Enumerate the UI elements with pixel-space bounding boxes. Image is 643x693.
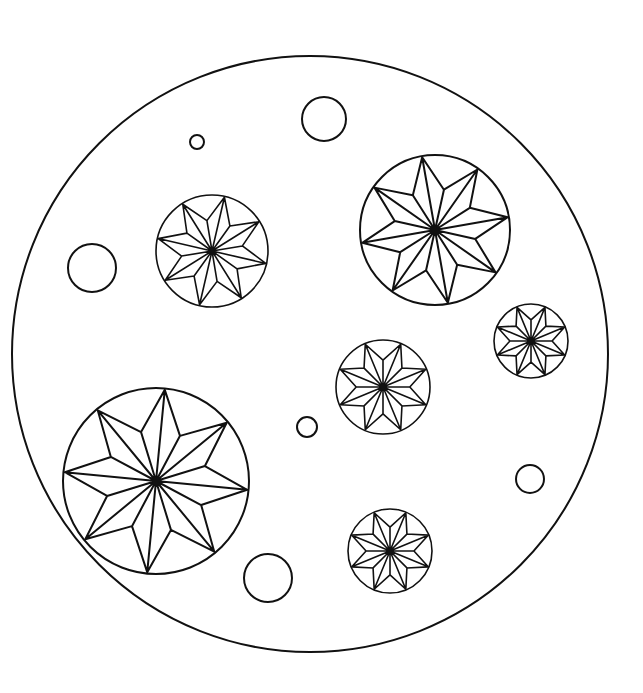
star-center-dot [529, 339, 534, 344]
star-middle [336, 340, 430, 434]
star-top-right [360, 155, 510, 305]
star-top-left [156, 195, 268, 307]
star-center-dot [209, 248, 214, 253]
star-center-dot [432, 227, 439, 234]
star-bottom-left [63, 388, 249, 574]
circle-left [68, 244, 116, 292]
star-center-dot [388, 549, 393, 554]
circle-small-center [297, 417, 317, 437]
circle-top [302, 97, 346, 141]
star-medallions-group [63, 155, 568, 593]
circle-bottom [244, 554, 292, 602]
coloring-page-canvas [0, 0, 643, 693]
circle-small-right [516, 465, 544, 493]
circle-tiny-top [190, 135, 204, 149]
star-right-small [494, 304, 568, 378]
star-center-dot [381, 385, 386, 390]
star-bottom [348, 509, 432, 593]
star-center-dot [152, 477, 160, 485]
